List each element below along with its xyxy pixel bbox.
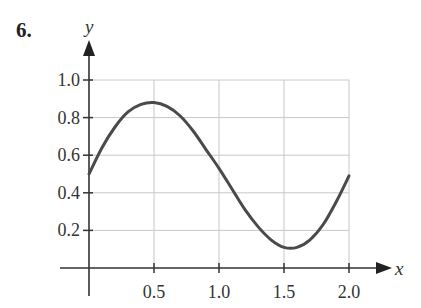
line-chart: x y 0.51.01.52.00.20.40.60.81.0	[0, 0, 421, 308]
x-axis-label: x	[394, 258, 404, 279]
y-tick-label: 0.6	[58, 145, 81, 165]
y-tick-label: 0.2	[58, 220, 81, 240]
y-tick-label: 1.0	[58, 70, 81, 90]
y-tick-label: 0.8	[58, 108, 81, 128]
x-tick-label: 2.0	[338, 282, 361, 302]
x-tick-label: 1.0	[208, 282, 231, 302]
y-axis-arrow-icon	[83, 40, 95, 56]
x-tick-label: 1.5	[273, 282, 296, 302]
x-tick-label: 0.5	[143, 282, 166, 302]
x-axis-arrow-icon	[376, 262, 392, 274]
y-axis-label: y	[83, 16, 94, 37]
y-tick-label: 0.4	[58, 183, 81, 203]
axes: x y	[60, 16, 404, 296]
